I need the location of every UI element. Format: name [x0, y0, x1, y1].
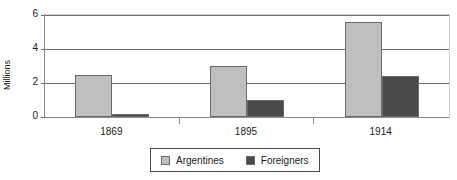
x-axis-tick-mark	[179, 118, 180, 124]
x-axis-tick-mark	[313, 118, 314, 124]
y-axis-title-text: Millions	[2, 60, 12, 90]
bar	[382, 76, 419, 117]
x-axis-tick-label: 1914	[313, 126, 448, 137]
gridline	[45, 49, 449, 50]
x-axis-tick-label: 1895	[179, 126, 314, 137]
legend-swatch-icon	[161, 156, 170, 165]
y-axis-title: Millions	[0, 30, 14, 120]
bar	[112, 114, 149, 117]
y-axis-tick-mark	[41, 83, 46, 84]
y-axis-tick-label: 4	[16, 43, 38, 53]
x-axis-tick-label: 1869	[44, 126, 179, 137]
legend-entry: Argentines	[161, 155, 224, 166]
chart-legend: ArgentinesForeigners	[150, 148, 320, 172]
bar	[210, 66, 247, 117]
bar	[345, 22, 382, 117]
legend-entry: Foreigners	[246, 155, 309, 166]
y-axis-tick-mark	[41, 15, 46, 16]
y-axis-tick-mark	[41, 49, 46, 50]
legend-swatch-icon	[246, 156, 255, 165]
y-axis-tick-label: 2	[16, 77, 38, 87]
y-axis-tick-label: 6	[16, 9, 38, 19]
legend-label: Foreigners	[261, 155, 309, 166]
legend-label: Argentines	[176, 155, 224, 166]
bar	[75, 75, 112, 118]
bar-chart: Millions 0246 186918951914 ArgentinesFor…	[0, 0, 457, 180]
bar	[247, 100, 284, 117]
y-axis-tick-labels: 0246	[14, 0, 38, 130]
plot-area	[44, 14, 450, 118]
y-axis-tick-label: 0	[16, 111, 38, 121]
gridline	[45, 15, 449, 16]
x-axis: 186918951914	[44, 118, 450, 140]
